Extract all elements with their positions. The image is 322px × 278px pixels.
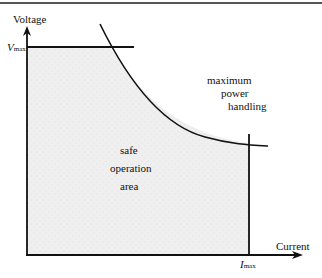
- region-label-line1: safe: [120, 144, 138, 156]
- soa-diagram: Voltage Vmax Current Imax maximum power …: [0, 0, 322, 278]
- curve-label-line2: power: [221, 87, 249, 99]
- diagram-graphics: [0, 0, 322, 278]
- imax-label: Imax: [240, 258, 256, 272]
- vmax-symbol: V: [7, 41, 14, 53]
- vmax-label: Vmax: [7, 41, 26, 55]
- region-label-line3: area: [120, 180, 138, 192]
- imax-subscript: max: [244, 262, 256, 270]
- x-axis-label: Current: [276, 240, 310, 252]
- curve-label-line1: maximum: [207, 74, 252, 86]
- vmax-subscript: max: [14, 45, 26, 53]
- y-axis-label: Voltage: [13, 13, 46, 25]
- curve-label-line3: handling: [228, 100, 267, 112]
- region-label-line2: operation: [110, 162, 152, 174]
